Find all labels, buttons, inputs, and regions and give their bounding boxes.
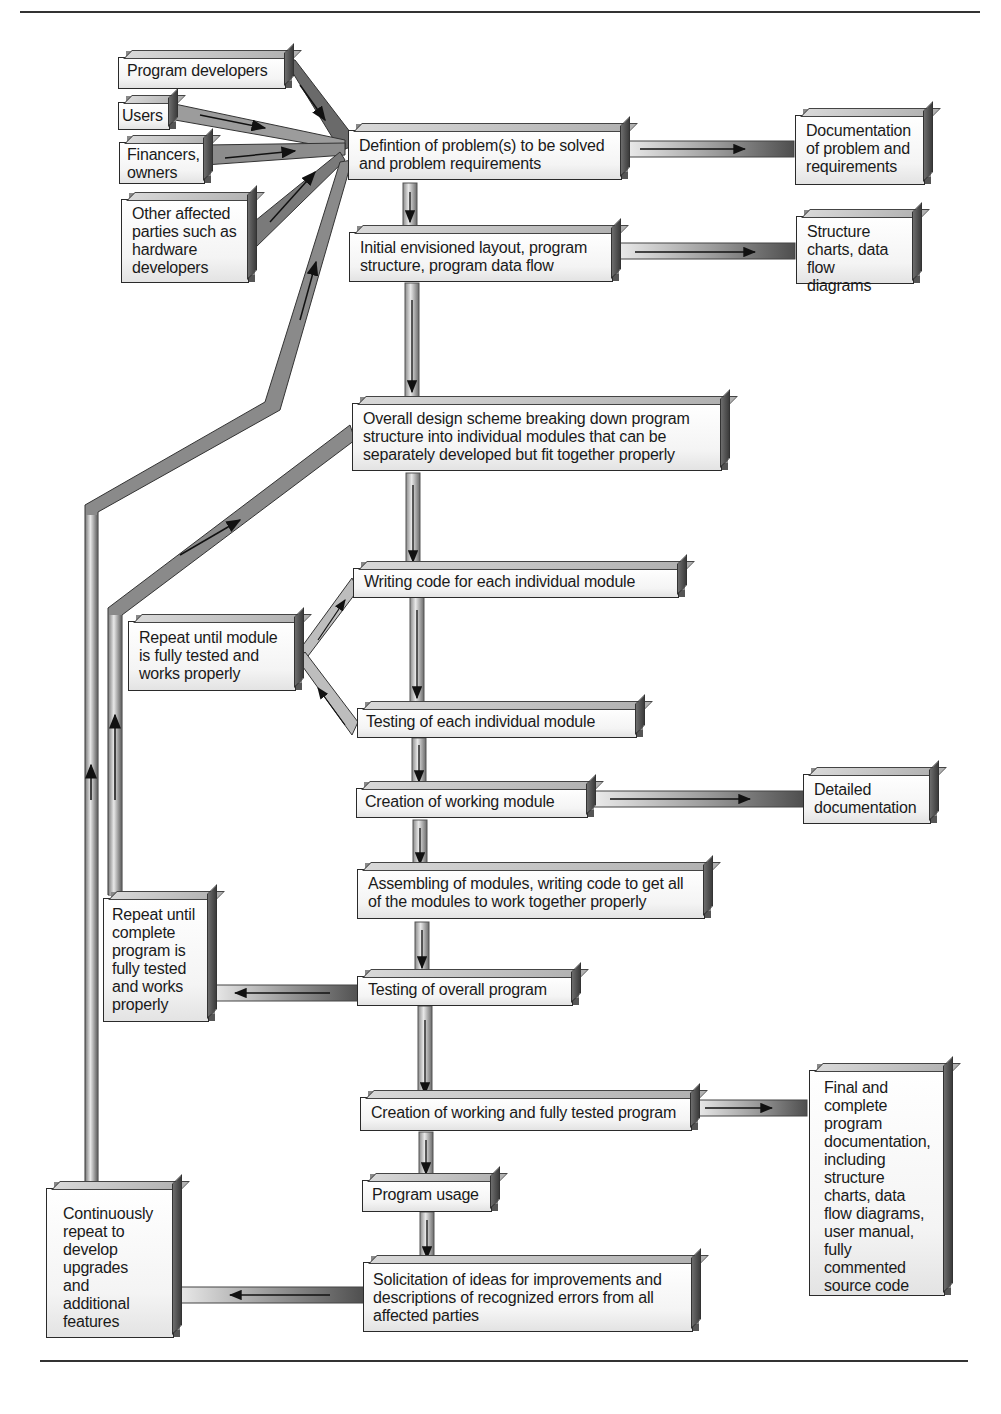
source-program-developers: Program developers [118,57,286,89]
step-working-module: Creation of working module [356,788,588,818]
loop-repeat-program: Repeat until complete program is fully t… [103,898,209,1022]
output-pipes [590,141,807,1116]
step-testing-module: Testing of each individual module [357,708,637,738]
step-working-program: Creation of working and fully tested pro… [360,1097,692,1131]
source-financers: Financers, owners [119,142,205,184]
step-initial-layout: Initial envisioned layout, program struc… [349,232,613,282]
output-detailed-doc: Detailed documentation [803,774,931,824]
loop-repeat-module: Repeat until module is fully tested and … [128,621,296,691]
module-loop-connectors [298,578,358,735]
step-definition: Defintion of problem(s) to be solved and… [348,130,622,180]
output-structure-charts: Structure charts, data flow diagrams [796,216,914,284]
source-users: Users [118,102,170,130]
feedback-pipes [175,985,365,1303]
output-final-doc: Final and complete program documentation… [809,1070,945,1296]
step-writing-code: Writing code for each individual module [353,568,679,598]
source-other-parties: Other affected parties such as hardware … [121,199,249,283]
step-solicitation: Solicitation of ideas for improvements a… [363,1262,693,1332]
step-overall-design: Overall design scheme breaking down prog… [352,403,722,471]
step-usage: Program usage [362,1180,492,1212]
output-doc-problem: Documentation of problem and requirement… [795,115,925,185]
step-testing-overall: Testing of overall program [357,976,573,1006]
loop-continuous: Continuously repeat to develop upgrades … [46,1188,174,1338]
step-assembling: Assembling of modules, writing code to g… [357,869,705,919]
